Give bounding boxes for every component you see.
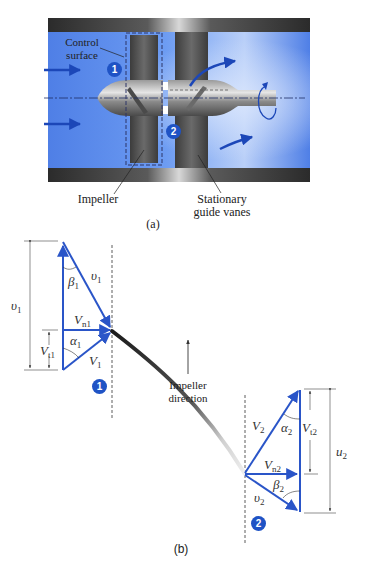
outlet-tangential-velocity-label: Vt2 (302, 420, 317, 437)
impeller-label: Impeller (76, 193, 120, 206)
station-2-badge-b: 2 (251, 516, 266, 531)
beta1-label: β1 (68, 274, 79, 291)
caption-a: (a) (143, 218, 163, 231)
beta2-label: β2 (273, 477, 284, 494)
control-surface-label-line2: surface (62, 49, 102, 62)
inlet-tangential-velocity-label: Vt1 (40, 343, 55, 360)
impeller-direction-line1: Impeller (165, 379, 211, 392)
outlet-relative-velocity-label: υ2 (254, 490, 264, 507)
control-surface-label: Control surface (62, 36, 102, 62)
housing-top (48, 18, 310, 32)
station-1-badge-b: 1 (92, 379, 107, 394)
caption-b: (b) (170, 543, 192, 556)
alpha2-arc (284, 414, 300, 419)
impeller-direction-label: Impeller direction (165, 379, 211, 405)
outlet-absolute-velocity-label: V2 (252, 418, 264, 435)
station-1-badge-a: 1 (107, 62, 122, 77)
housing-bottom (48, 168, 310, 182)
control-surface-label-line1: Control (62, 36, 102, 49)
alpha1-label: α1 (70, 333, 81, 350)
axial-pump-figure (0, 0, 365, 565)
outlet-relative-velocity-vector (245, 475, 297, 510)
outlet-blade-speed-label: u2 (336, 444, 347, 461)
alpha2-label: α2 (281, 420, 292, 437)
guide-vanes-label: Stationary guide vanes (190, 193, 254, 219)
inlet-relative-velocity-label: υ1 (91, 268, 101, 285)
impeller-direction-line2: direction (165, 392, 211, 405)
inlet-blade-speed-label: υ1 (11, 298, 21, 315)
outlet-normal-velocity-label: Vn2 (264, 457, 281, 474)
inlet-absolute-velocity-label: V1 (89, 353, 101, 370)
inlet-normal-velocity-label: Vn1 (74, 312, 91, 329)
station-2-badge-a: 2 (166, 124, 181, 139)
beta2-arc (283, 491, 300, 498)
guide-vanes-label-line2: guide vanes (190, 206, 254, 219)
beta1-arc (63, 267, 76, 269)
